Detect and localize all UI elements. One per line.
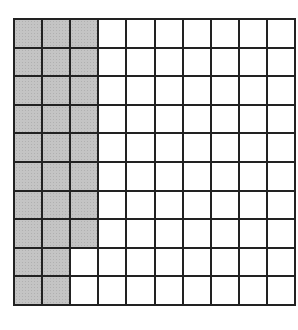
grid-cell bbox=[268, 134, 294, 161]
grid-cell bbox=[156, 220, 182, 247]
grid-cell-shaded bbox=[15, 277, 41, 304]
grid-cell bbox=[268, 77, 294, 104]
grid-cell bbox=[268, 163, 294, 190]
grid-cell bbox=[127, 249, 153, 276]
grid-cell bbox=[184, 249, 210, 276]
grid-cell-shaded bbox=[71, 220, 97, 247]
grid-cell bbox=[127, 77, 153, 104]
grid-cell bbox=[99, 134, 125, 161]
grid-cell-shaded bbox=[71, 134, 97, 161]
grid-cell-shaded bbox=[43, 77, 69, 104]
hundred-grid bbox=[13, 18, 296, 306]
grid-cell-shaded bbox=[43, 20, 69, 47]
grid-cell bbox=[268, 249, 294, 276]
grid-cell bbox=[156, 20, 182, 47]
grid-cell bbox=[268, 277, 294, 304]
grid-cell-shaded bbox=[71, 163, 97, 190]
grid-cell bbox=[99, 220, 125, 247]
grid-cell bbox=[184, 220, 210, 247]
grid-cell bbox=[184, 277, 210, 304]
grid-cell bbox=[240, 220, 266, 247]
grid-cell bbox=[156, 106, 182, 133]
grid-cell bbox=[240, 20, 266, 47]
grid-cell bbox=[240, 49, 266, 76]
grid-cell bbox=[240, 249, 266, 276]
grid-cell bbox=[240, 134, 266, 161]
grid-cell bbox=[184, 106, 210, 133]
grid-cell bbox=[127, 49, 153, 76]
grid-cell-shaded bbox=[15, 20, 41, 47]
grid-cell bbox=[212, 277, 238, 304]
grid-cell bbox=[184, 77, 210, 104]
grid-cell bbox=[71, 277, 97, 304]
grid-cell-shaded bbox=[15, 163, 41, 190]
grid-cell bbox=[212, 192, 238, 219]
grid-cell bbox=[240, 77, 266, 104]
grid-cell bbox=[156, 163, 182, 190]
grid-cell-shaded bbox=[15, 192, 41, 219]
grid-cell bbox=[268, 220, 294, 247]
grid-cell bbox=[212, 249, 238, 276]
grid-cell-shaded bbox=[15, 134, 41, 161]
grid-cell bbox=[99, 106, 125, 133]
grid-cell-shaded bbox=[43, 49, 69, 76]
grid-cell bbox=[184, 20, 210, 47]
grid-cell bbox=[156, 192, 182, 219]
grid-cell bbox=[184, 192, 210, 219]
grid-cell bbox=[99, 77, 125, 104]
grid-cell bbox=[268, 20, 294, 47]
grid-cell bbox=[71, 249, 97, 276]
grid-cell bbox=[212, 220, 238, 247]
grid-cell-shaded bbox=[43, 192, 69, 219]
grid-cell bbox=[184, 163, 210, 190]
grid-cell bbox=[212, 49, 238, 76]
grid-cell bbox=[99, 192, 125, 219]
grid-cell-shaded bbox=[43, 134, 69, 161]
grid-cell bbox=[127, 277, 153, 304]
grid-cell bbox=[240, 163, 266, 190]
grid-cell bbox=[156, 134, 182, 161]
grid-cell-shaded bbox=[71, 49, 97, 76]
grid-cell-shaded bbox=[15, 249, 41, 276]
grid-cell bbox=[268, 192, 294, 219]
grid-cell bbox=[127, 192, 153, 219]
grid-cell bbox=[240, 277, 266, 304]
grid-cell bbox=[156, 277, 182, 304]
grid-cell bbox=[212, 20, 238, 47]
grid-cell bbox=[127, 20, 153, 47]
grid-cell bbox=[268, 49, 294, 76]
grid-cell bbox=[268, 106, 294, 133]
grid-cell bbox=[127, 220, 153, 247]
grid-cell-shaded bbox=[43, 106, 69, 133]
grid-cell bbox=[127, 134, 153, 161]
grid-cell bbox=[99, 20, 125, 47]
grid-cell bbox=[156, 49, 182, 76]
grid-cell bbox=[156, 249, 182, 276]
grid-cell-shaded bbox=[15, 220, 41, 247]
grid-cell-shaded bbox=[15, 106, 41, 133]
grid-cell-shaded bbox=[71, 77, 97, 104]
grid-cell-shaded bbox=[71, 192, 97, 219]
grid-cell bbox=[156, 77, 182, 104]
grid-cell bbox=[99, 249, 125, 276]
grid-cell bbox=[212, 77, 238, 104]
grid-cell-shaded bbox=[15, 49, 41, 76]
grid-cell bbox=[127, 106, 153, 133]
grid-cell bbox=[99, 277, 125, 304]
grid-cell-shaded bbox=[15, 77, 41, 104]
grid-cell-shaded bbox=[43, 163, 69, 190]
grid-cell-shaded bbox=[43, 277, 69, 304]
grid-cell bbox=[212, 163, 238, 190]
grid-cell bbox=[212, 106, 238, 133]
grid-cell-shaded bbox=[71, 20, 97, 47]
grid-cell-shaded bbox=[43, 220, 69, 247]
grid-cell-shaded bbox=[43, 249, 69, 276]
grid-cell bbox=[184, 134, 210, 161]
grid-cell bbox=[240, 106, 266, 133]
grid-cell bbox=[127, 163, 153, 190]
grid-cell bbox=[184, 49, 210, 76]
grid-cell-shaded bbox=[71, 106, 97, 133]
grid-cell bbox=[99, 49, 125, 76]
grid-cell bbox=[212, 134, 238, 161]
grid-cell bbox=[240, 192, 266, 219]
